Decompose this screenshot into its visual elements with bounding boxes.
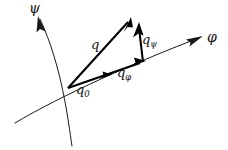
vector-q-label: q bbox=[91, 38, 99, 51]
psi-axis-label: ψ bbox=[29, 1, 40, 15]
psi-coordinate-curve bbox=[40, 19, 72, 146]
origin-q0-subscript: 0 bbox=[84, 89, 89, 99]
vector-q-phi-subscript: φ bbox=[125, 72, 131, 82]
vector-q-phi-label: qφ bbox=[117, 66, 131, 81]
vector-q-psi-subscript: ψ bbox=[150, 39, 157, 49]
phi-axis-arrowhead bbox=[186, 36, 203, 47]
diagram-canvas bbox=[0, 0, 228, 150]
phi-coordinate-curve bbox=[15, 38, 199, 123]
origin-q0-label: q0 bbox=[76, 83, 90, 98]
vector-q-psi-label: qψ bbox=[142, 33, 157, 48]
phi-axis-label: φ bbox=[207, 30, 217, 44]
psi-axis-arrowhead bbox=[37, 16, 46, 33]
vector-decomposition-diagram: ψ φ q q0 qφ qψ bbox=[0, 0, 228, 150]
